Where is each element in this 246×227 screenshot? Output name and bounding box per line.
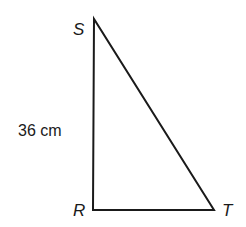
triangle-diagram: S R T 36 cm: [0, 0, 246, 227]
vertex-label-s: S: [73, 20, 85, 39]
vertex-label-t: T: [222, 201, 234, 220]
side-sr-length-label: 36 cm: [18, 122, 62, 139]
vertex-label-r: R: [73, 201, 85, 220]
triangle-srt: [93, 19, 214, 210]
